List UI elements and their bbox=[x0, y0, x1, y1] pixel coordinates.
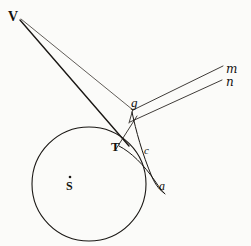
line-v-to-g bbox=[21, 19, 133, 110]
geometric-figure: V g T c a S m n bbox=[0, 0, 251, 246]
label-n: n bbox=[226, 76, 234, 88]
label-g: g bbox=[131, 96, 138, 109]
circle-body bbox=[32, 127, 146, 241]
label-m: m bbox=[226, 63, 237, 75]
line-junction-to-n bbox=[130, 80, 222, 122]
line-v-to-t bbox=[20, 20, 129, 146]
label-v: V bbox=[8, 10, 18, 24]
line-g-to-m bbox=[133, 66, 223, 110]
label-a: a bbox=[159, 180, 165, 192]
label-s: S bbox=[66, 180, 73, 192]
label-c: c bbox=[144, 145, 149, 156]
figure-canvas bbox=[0, 0, 251, 246]
label-t: T bbox=[111, 140, 120, 153]
circle-center-dot bbox=[69, 176, 72, 179]
